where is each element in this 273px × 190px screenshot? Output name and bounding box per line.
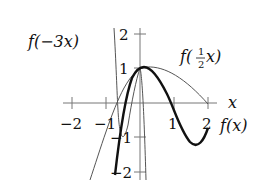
axes: [63, 28, 217, 180]
label-x-axis: x: [228, 93, 237, 112]
svg-text:1: 1: [198, 46, 204, 57]
function-transformations-plot: −2 −1 1 2 2 1 −1 −2 f(−3x) f( 1 2 x) f(x…: [0, 0, 273, 190]
tick-label-x-2: 2: [202, 115, 212, 133]
curve-f-neg3x-right: [140, 68, 146, 180]
label-f-half-x: f( 1 2 x): [179, 46, 221, 70]
svg-text:x): x): [206, 47, 221, 66]
svg-text:2: 2: [198, 59, 204, 70]
label-f-x: f(x): [219, 116, 247, 135]
tick-label-y-neg2: −2: [110, 164, 132, 182]
tick-label-y-neg1: −1: [110, 129, 132, 147]
tick-label-y-1: 1: [119, 60, 129, 78]
tick-label-y-2: 2: [119, 26, 129, 44]
tick-label-x-1: 1: [168, 115, 178, 133]
svg-text:f(: f(: [179, 47, 193, 66]
tick-label-x-neg2: −2: [60, 115, 82, 133]
label-f-neg3x: f(−3x): [27, 32, 79, 51]
